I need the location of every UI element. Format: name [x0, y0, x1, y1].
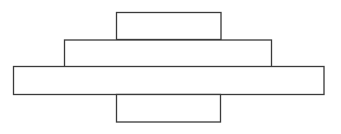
stepped-rectangles-diagram: [0, 0, 341, 134]
middle-block: [65, 40, 272, 68]
top-block: [117, 13, 222, 40]
bottom-block: [117, 95, 221, 123]
wide-block: [14, 67, 325, 95]
